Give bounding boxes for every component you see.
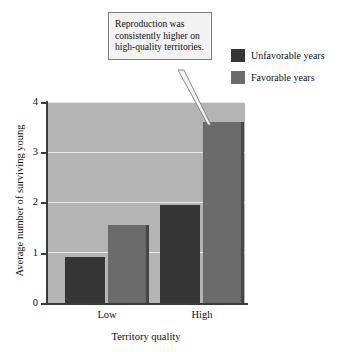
y-tick-mark-0 [41, 303, 46, 305]
x-axis-title: Territory quality [47, 331, 245, 342]
callout-text: Reproduction was consistently higher on … [115, 18, 204, 52]
gridline-4 [47, 102, 245, 103]
legend-item-favorable: Favorable years [231, 71, 325, 84]
y-tick-mark-3 [41, 152, 46, 154]
y-tick-mark-1 [41, 253, 46, 255]
plot-area [47, 102, 245, 303]
y-tick-label-1: 1 [24, 248, 38, 259]
legend-swatch-unfavorable-icon [231, 49, 245, 62]
y-axis-line [46, 101, 48, 304]
bar-low-unfavorable [65, 257, 105, 303]
legend: Unfavorable years Favorable years [231, 49, 325, 93]
callout-annotation: Reproduction was consistently higher on … [108, 12, 212, 60]
y-tick-label-2: 2 [24, 197, 38, 208]
bar-high-unfavorable [160, 205, 200, 303]
y-axis-title: Average number of surviving young [14, 106, 25, 296]
legend-item-unfavorable: Unfavorable years [231, 49, 325, 62]
bar-low-favorable [108, 225, 149, 303]
bar-high-favorable [203, 122, 244, 303]
legend-label-unfavorable: Unfavorable years [251, 50, 325, 61]
legend-label-favorable: Favorable years [251, 72, 315, 83]
bar-low-favorable-edge [146, 225, 149, 303]
legend-swatch-favorable-icon [231, 71, 245, 84]
y-tick-label-3: 3 [24, 147, 38, 158]
x-axis-line [44, 303, 248, 305]
bar-high-favorable-edge [241, 122, 244, 303]
x-tick-label-high: High [172, 309, 232, 321]
y-tick-label-0: 0 [24, 298, 38, 309]
x-tick-label-low: Low [77, 309, 137, 321]
y-tick-mark-2 [41, 202, 46, 204]
y-tick-mark-4 [41, 102, 46, 104]
chart-figure: 4 3 2 1 0 Low High Territory quality Ave… [0, 0, 339, 352]
y-tick-label-4: 4 [24, 97, 38, 108]
